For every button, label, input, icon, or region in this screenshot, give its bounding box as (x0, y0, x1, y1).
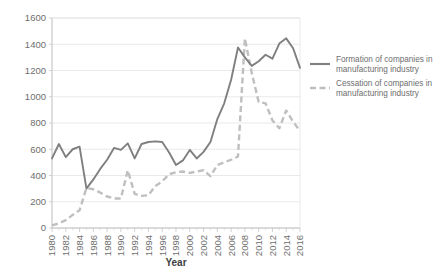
x-tick-label: 1990 (115, 235, 126, 256)
x-tick-label: 2006 (226, 235, 237, 256)
x-tick-label: 2008 (239, 235, 250, 256)
x-tick-label: 1988 (102, 235, 113, 256)
series-line-cessation (52, 38, 300, 225)
x-tick-label: 1998 (170, 235, 181, 256)
legend-label-formation-line1: Formation of companies in (336, 55, 433, 64)
x-tick-label: 1996 (157, 235, 168, 256)
x-axis-title: Year (165, 257, 186, 268)
x-tick-label: 2004 (212, 235, 223, 256)
y-tick-label: 1200 (25, 65, 46, 76)
x-axis-tick-labels: 1980198219841986198819901992199419961998… (46, 235, 305, 256)
legend-item-cessation: Cessation of companies in manufacturing … (310, 79, 432, 98)
legend-label-cessation-line1: Cessation of companies in (336, 79, 432, 88)
y-tick-label: 1000 (25, 91, 46, 102)
y-tick-label: 400 (30, 170, 46, 181)
x-tick-label: 1994 (143, 235, 154, 256)
x-tick-label: 2014 (281, 235, 292, 256)
x-tick-label: 1982 (60, 235, 71, 256)
x-tick-label: 1984 (74, 235, 85, 256)
x-tick-label: 2000 (184, 235, 195, 256)
y-tick-label: 1400 (25, 39, 46, 50)
y-tick-label: 200 (30, 196, 46, 207)
chart-canvas: 02004006008001000120014001600 1980198219… (0, 0, 443, 276)
y-tick-label: 600 (30, 144, 46, 155)
y-tick-label: 0 (41, 222, 46, 233)
y-axis-tick-labels: 02004006008001000120014001600 (25, 12, 46, 233)
y-tick-label: 1600 (25, 12, 46, 23)
x-tick-label: 2012 (267, 235, 278, 256)
y-tick-label: 800 (30, 117, 46, 128)
x-axis-tickmarks (52, 228, 300, 232)
x-tick-label: 2010 (253, 235, 264, 256)
x-tick-label: 2002 (198, 235, 209, 256)
x-tick-label: 1992 (129, 235, 140, 256)
legend-label-formation-line2: manufacturing industry (336, 65, 420, 74)
legend-item-formation: Formation of companies in manufacturing … (310, 55, 433, 74)
gridlines (52, 18, 300, 228)
series-line-formation (52, 38, 300, 188)
chart-legend: Formation of companies in manufacturing … (310, 55, 433, 98)
x-tick-label: 1986 (88, 235, 99, 256)
x-tick-label: 2016 (294, 235, 305, 256)
legend-label-cessation-line2: manufacturing industry (336, 89, 420, 98)
x-tick-label: 1980 (46, 235, 57, 256)
line-chart: 02004006008001000120014001600 1980198219… (0, 0, 443, 276)
